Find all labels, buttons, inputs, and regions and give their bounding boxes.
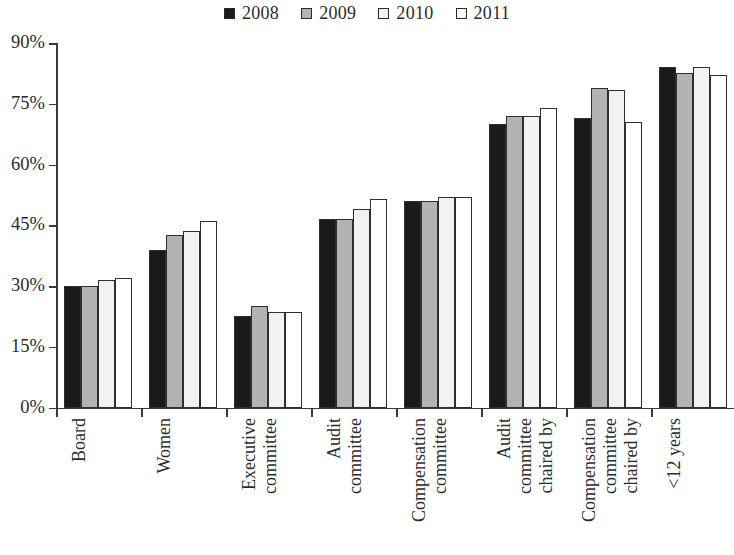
legend-entry-2010: 2010 bbox=[378, 4, 433, 22]
bar-2011 bbox=[115, 278, 132, 408]
legend-label-2010: 2010 bbox=[396, 4, 433, 22]
bar-2010 bbox=[523, 116, 540, 408]
plot-area: 0%15%30%45%60%75%90% bbox=[56, 43, 734, 409]
y-tick-30: 30% bbox=[49, 286, 56, 288]
legend-label-2009: 2009 bbox=[319, 4, 356, 22]
bar-group bbox=[574, 44, 642, 408]
y-tick-90: 90% bbox=[49, 43, 56, 45]
category-label-line: chaired by bbox=[537, 418, 555, 493]
y-tick-0: 0% bbox=[49, 408, 56, 410]
bar-2008 bbox=[319, 219, 336, 407]
bar-2009 bbox=[591, 88, 608, 408]
y-tick-75: 75% bbox=[49, 104, 56, 106]
category-label-Compensation committee: Compensationcommittee bbox=[404, 414, 472, 555]
chart-legend: 2008200920102011 bbox=[0, 2, 734, 24]
bar-2011 bbox=[370, 199, 387, 408]
bar-2009 bbox=[421, 201, 438, 408]
category-label-Audit committee: Auditcommittee bbox=[319, 414, 387, 555]
category-label-line: Compensation bbox=[410, 418, 428, 522]
bar-2011 bbox=[625, 122, 642, 408]
bar-2009 bbox=[166, 235, 183, 407]
legend-entry-2011: 2011 bbox=[456, 4, 511, 22]
x-axis-category-labels: BoardWomenExecutivecommitteeAuditcommitt… bbox=[56, 414, 734, 555]
category-label-line: committee bbox=[601, 418, 619, 494]
bar-2009 bbox=[336, 219, 353, 407]
bar-group bbox=[489, 44, 557, 408]
legend-swatch-2008 bbox=[224, 8, 235, 19]
category-label-line: Compensation bbox=[580, 418, 598, 522]
bar-2008 bbox=[234, 316, 251, 407]
bar-2009 bbox=[251, 306, 268, 407]
legend-entry-2008: 2008 bbox=[224, 4, 279, 22]
bar-chart: 2008200920102011 0%15%30%45%60%75%90% Bo… bbox=[0, 0, 734, 555]
bar-group bbox=[234, 44, 302, 408]
legend-label-2008: 2008 bbox=[242, 4, 279, 22]
bar-2010 bbox=[693, 67, 710, 407]
y-tick-label-45: 45% bbox=[11, 216, 45, 235]
bar-2011 bbox=[710, 75, 727, 407]
x-axis-line bbox=[56, 408, 734, 410]
bar-2008 bbox=[64, 286, 81, 408]
y-tick-label-0: 0% bbox=[20, 398, 45, 417]
bar-2008 bbox=[404, 201, 421, 408]
bar-group bbox=[64, 44, 132, 408]
y-axis-line bbox=[56, 43, 58, 409]
y-tick-label-15: 15% bbox=[11, 337, 45, 356]
y-tick-45: 45% bbox=[49, 225, 56, 227]
category-label-line: Women bbox=[155, 418, 173, 474]
category-label-Compensation committee chaired by: Compensationcommitteechaired by bbox=[574, 414, 642, 555]
legend-entry-2009: 2009 bbox=[301, 4, 356, 22]
bar-2008 bbox=[574, 118, 591, 408]
bar-group bbox=[404, 44, 472, 408]
category-label-line: Executive bbox=[240, 418, 258, 490]
legend-swatch-2009 bbox=[301, 8, 312, 19]
category-label-line: committee bbox=[431, 418, 449, 494]
y-tick-label-75: 75% bbox=[11, 94, 45, 113]
category-label-line: <12 years bbox=[665, 418, 683, 489]
y-tick-15: 15% bbox=[49, 347, 56, 349]
bar-2009 bbox=[676, 73, 693, 407]
category-label-<12 years: <12 years bbox=[659, 414, 727, 555]
bar-2011 bbox=[455, 197, 472, 408]
category-label-Executive committee: Executivecommittee bbox=[234, 414, 302, 555]
bar-group bbox=[659, 44, 727, 408]
bar-2010 bbox=[268, 312, 285, 407]
category-label-line: Audit bbox=[325, 418, 343, 459]
category-label-line: committee bbox=[346, 418, 364, 494]
bar-2011 bbox=[285, 312, 302, 407]
bar-2008 bbox=[659, 67, 676, 407]
category-label-Board: Board bbox=[64, 414, 132, 555]
bar-group bbox=[319, 44, 387, 408]
category-label-line: Board bbox=[70, 418, 88, 462]
category-label-line: Audit bbox=[495, 418, 513, 459]
bar-group bbox=[149, 44, 217, 408]
legend-swatch-2011 bbox=[456, 8, 467, 19]
category-label-line: committee bbox=[261, 418, 279, 494]
category-label-Women: Women bbox=[149, 414, 217, 555]
y-tick-label-60: 60% bbox=[11, 155, 45, 174]
y-tick-60: 60% bbox=[49, 165, 56, 167]
category-label-line: committee bbox=[516, 418, 534, 494]
bar-2010 bbox=[183, 231, 200, 407]
y-tick-label-90: 90% bbox=[11, 33, 45, 52]
bar-2010 bbox=[608, 90, 625, 408]
legend-label-2011: 2011 bbox=[474, 4, 511, 22]
bar-2010 bbox=[438, 197, 455, 408]
bar-2008 bbox=[149, 250, 166, 408]
bar-2011 bbox=[200, 221, 217, 407]
bar-2010 bbox=[98, 280, 115, 408]
bar-2008 bbox=[489, 124, 506, 408]
legend-swatch-2010 bbox=[378, 8, 389, 19]
bar-2009 bbox=[506, 116, 523, 408]
category-label-line: chaired by bbox=[622, 418, 640, 493]
bar-2011 bbox=[540, 108, 557, 408]
bar-2010 bbox=[353, 209, 370, 407]
category-label-Audit committee chaired by: Auditcommitteechaired by bbox=[489, 414, 557, 555]
y-tick-label-30: 30% bbox=[11, 276, 45, 295]
bar-2009 bbox=[81, 286, 98, 408]
